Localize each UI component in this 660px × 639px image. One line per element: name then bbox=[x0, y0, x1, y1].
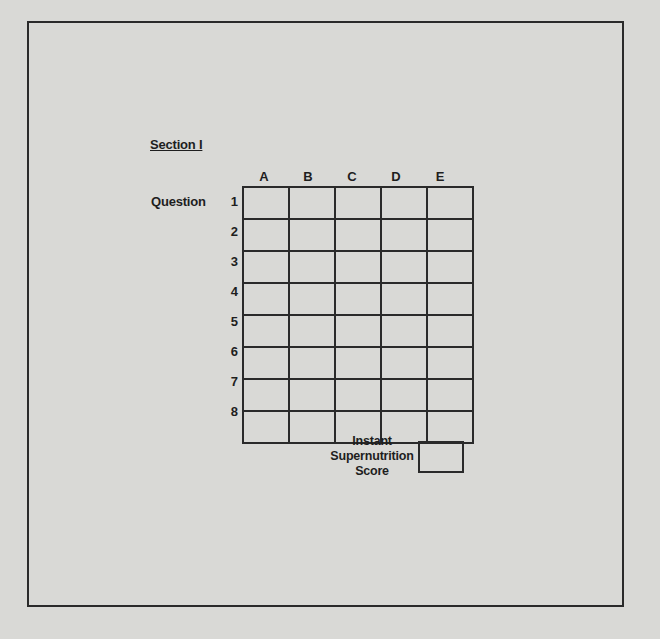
answer-cell-3d[interactable] bbox=[381, 251, 427, 283]
grid-row-6 bbox=[243, 347, 473, 379]
column-header-a: A bbox=[242, 169, 286, 184]
answer-cell-3a[interactable] bbox=[243, 251, 289, 283]
answer-cell-8b[interactable] bbox=[289, 411, 335, 443]
question-label: Question bbox=[151, 194, 206, 209]
answer-cell-1e[interactable] bbox=[427, 187, 473, 219]
score-label-line-1: Instant bbox=[330, 434, 414, 449]
answer-cell-8e[interactable] bbox=[427, 411, 473, 443]
score-label-line-2: Supernutrition bbox=[330, 449, 414, 464]
answer-cell-4b[interactable] bbox=[289, 283, 335, 315]
score-label-line-3: Score bbox=[330, 464, 414, 479]
section-title: Section I bbox=[150, 137, 202, 152]
answer-cell-5c[interactable] bbox=[335, 315, 381, 347]
column-header-b: B bbox=[286, 169, 330, 184]
grid-row-5 bbox=[243, 315, 473, 347]
answer-cell-3c[interactable] bbox=[335, 251, 381, 283]
grid-row-1 bbox=[243, 187, 473, 219]
answer-cell-4e[interactable] bbox=[427, 283, 473, 315]
answer-cell-2c[interactable] bbox=[335, 219, 381, 251]
grid-row-2 bbox=[243, 219, 473, 251]
answer-cell-6c[interactable] bbox=[335, 347, 381, 379]
row-number-6: 6 bbox=[222, 344, 238, 359]
answer-cell-1c[interactable] bbox=[335, 187, 381, 219]
answer-cell-6e[interactable] bbox=[427, 347, 473, 379]
answer-cell-7b[interactable] bbox=[289, 379, 335, 411]
answer-cell-4d[interactable] bbox=[381, 283, 427, 315]
answer-cell-5a[interactable] bbox=[243, 315, 289, 347]
answer-cell-2e[interactable] bbox=[427, 219, 473, 251]
answer-cell-1a[interactable] bbox=[243, 187, 289, 219]
answer-cell-6a[interactable] bbox=[243, 347, 289, 379]
row-number-1: 1 bbox=[222, 194, 238, 209]
answer-cell-5b[interactable] bbox=[289, 315, 335, 347]
answer-grid bbox=[242, 186, 474, 444]
answer-cell-8a[interactable] bbox=[243, 411, 289, 443]
row-number-2: 2 bbox=[222, 224, 238, 239]
answer-cell-2d[interactable] bbox=[381, 219, 427, 251]
answer-cell-3e[interactable] bbox=[427, 251, 473, 283]
score-box[interactable] bbox=[418, 441, 464, 473]
column-header-d: D bbox=[374, 169, 418, 184]
grid-row-7 bbox=[243, 379, 473, 411]
grid-row-4 bbox=[243, 283, 473, 315]
answer-cell-2a[interactable] bbox=[243, 219, 289, 251]
answer-cell-6b[interactable] bbox=[289, 347, 335, 379]
answer-cell-6d[interactable] bbox=[381, 347, 427, 379]
answer-cell-1b[interactable] bbox=[289, 187, 335, 219]
answer-cell-7a[interactable] bbox=[243, 379, 289, 411]
answer-cell-4c[interactable] bbox=[335, 283, 381, 315]
row-number-8: 8 bbox=[222, 404, 238, 419]
row-number-4: 4 bbox=[222, 284, 238, 299]
row-number-7: 7 bbox=[222, 374, 238, 389]
answer-cell-7d[interactable] bbox=[381, 379, 427, 411]
answer-cell-7e[interactable] bbox=[427, 379, 473, 411]
row-number-3: 3 bbox=[222, 254, 238, 269]
grid-row-3 bbox=[243, 251, 473, 283]
answer-cell-7c[interactable] bbox=[335, 379, 381, 411]
answer-cell-1d[interactable] bbox=[381, 187, 427, 219]
score-label: Instant Supernutrition Score bbox=[330, 434, 414, 479]
row-number-5: 5 bbox=[222, 314, 238, 329]
answer-cell-2b[interactable] bbox=[289, 219, 335, 251]
column-header-c: C bbox=[330, 169, 374, 184]
answer-cell-4a[interactable] bbox=[243, 283, 289, 315]
column-header-e: E bbox=[418, 169, 462, 184]
answer-cell-5d[interactable] bbox=[381, 315, 427, 347]
answer-cell-5e[interactable] bbox=[427, 315, 473, 347]
answer-cell-3b[interactable] bbox=[289, 251, 335, 283]
